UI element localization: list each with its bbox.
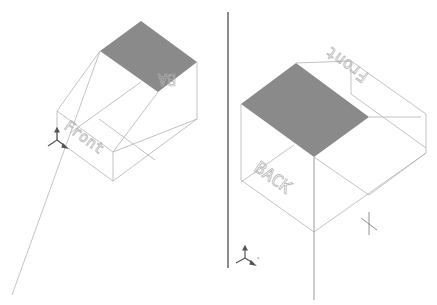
left-viewport[interactable]: Front BA [12, 21, 197, 295]
cad-workspace: Front BA BACK Front [0, 0, 437, 305]
left-shaded-top-face[interactable] [100, 21, 197, 92]
left-back-label: BA [158, 70, 176, 88]
right-front-label: Front [322, 43, 372, 87]
cad-drawing[interactable]: Front BA BACK Front [0, 0, 437, 305]
coordinate-triad-icon: x [236, 246, 260, 265]
right-viewport[interactable]: BACK Front x [236, 43, 426, 300]
crosshair-cursor-icon [361, 212, 377, 235]
svg-text:x: x [257, 255, 260, 260]
